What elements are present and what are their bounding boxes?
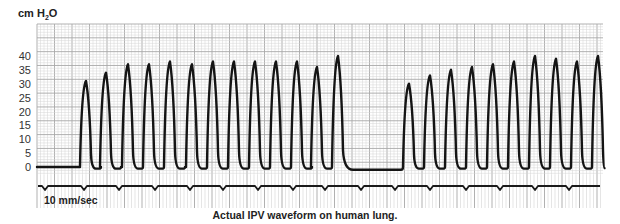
chart-caption: Actual IPV waveform on human lung. xyxy=(213,209,398,221)
y-axis-title: cm H2O xyxy=(18,7,58,21)
y-tick-label: 25 xyxy=(19,92,31,104)
y-tick-label: 10 xyxy=(19,133,31,145)
y-axis-ticks: 0510152025303540 xyxy=(19,50,31,173)
y-tick-label: 30 xyxy=(19,78,31,90)
y-tick-label: 20 xyxy=(19,106,31,118)
paper-speed-label: 10 mm/sec xyxy=(44,194,98,206)
y-tick-label: 15 xyxy=(19,119,31,131)
timing-line xyxy=(38,186,600,190)
y-tick-label: 5 xyxy=(25,147,31,159)
timing-strip-grid xyxy=(37,175,601,208)
ipv-waveform-chart: cm H2O 0510152025303540 10 mm/sec Actual… xyxy=(0,0,620,224)
y-tick-label: 0 xyxy=(25,161,31,173)
y-tick-label: 40 xyxy=(19,50,31,62)
y-tick-label: 35 xyxy=(19,64,31,76)
